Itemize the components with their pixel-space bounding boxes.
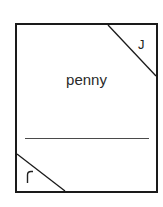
bottom-left-mark xyxy=(26,170,34,185)
top-right-mark: J xyxy=(138,38,145,51)
hook-glyph-icon xyxy=(26,170,34,183)
top-right-corner-diagonal xyxy=(17,25,156,191)
writing-line xyxy=(25,138,149,139)
card-word: penny xyxy=(17,71,156,88)
word-card: J penny xyxy=(15,23,158,193)
